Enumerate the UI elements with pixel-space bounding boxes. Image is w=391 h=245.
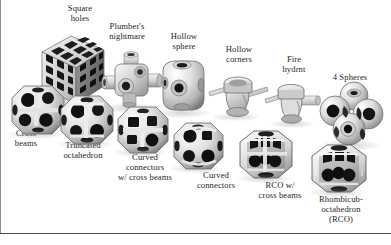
- specimen-rco-cross-beams: [236, 128, 296, 182]
- figure-left-border: [0, 0, 1, 234]
- label-rco-cross-beams: RCO w/ cross beams: [249, 180, 311, 200]
- label-fire-hydrant: Fire hydrnt: [272, 54, 316, 74]
- specimen-truncated-octahedron: [57, 92, 117, 148]
- specimen-gallery-figure: Square holes Plumber's nightmare Hollow …: [0, 0, 391, 245]
- label-rhombicuboctahedron: Rhombicub- octahedron (RCO): [305, 194, 377, 225]
- label-hollow-sphere: Hollow sphere: [157, 31, 211, 51]
- specimen-hollow-corners: [207, 73, 269, 121]
- specimen-curved-connectors: [171, 120, 227, 172]
- figure-bottom-rule: [0, 233, 391, 234]
- specimen-curved-connectors-cross-beams: [114, 104, 172, 156]
- specimen-fire-hydrant: [264, 82, 322, 128]
- label-hollow-corners: Hollow corners: [211, 44, 267, 64]
- specimen-rhombicuboctahedron: [308, 142, 370, 196]
- specimen-four-spheres: [318, 82, 384, 148]
- label-four-spheres: 4 Spheres: [320, 72, 380, 82]
